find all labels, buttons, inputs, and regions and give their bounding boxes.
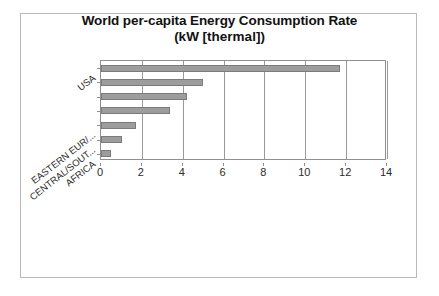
bar-row[interactable] [101,147,111,161]
value-tick-label: 12 [339,166,351,178]
bar-row[interactable] [101,104,170,118]
value-tick-label: 8 [260,166,266,178]
value-axis: 02468101214 [100,163,386,179]
chart-subtitle: (kW [thermal]) [0,29,439,45]
bars-layer [101,61,385,159]
value-tick-label: 0 [97,166,103,178]
chart-title-block: World per-capita Energy Consumption Rate… [0,13,439,45]
bar[interactable] [101,150,111,157]
plot-area [100,60,386,160]
bar[interactable] [101,136,122,143]
bar-row[interactable] [101,90,187,104]
value-tick-label: 6 [220,166,226,178]
bar-row[interactable] [101,132,122,146]
bar[interactable] [101,93,187,100]
value-tick-label: 14 [380,166,392,178]
gridline-14 [387,61,388,159]
bar[interactable] [101,65,340,72]
bar[interactable] [101,107,170,114]
bar-row[interactable] [101,118,136,132]
bar[interactable] [101,79,203,86]
bar[interactable] [101,122,136,129]
value-tick-label: 4 [179,166,185,178]
bar-row[interactable] [101,61,340,75]
value-tick-label: 10 [298,166,310,178]
chart-title: World per-capita Energy Consumption Rate [0,13,439,29]
bar-row[interactable] [101,75,203,89]
value-tick-label: 2 [138,166,144,178]
